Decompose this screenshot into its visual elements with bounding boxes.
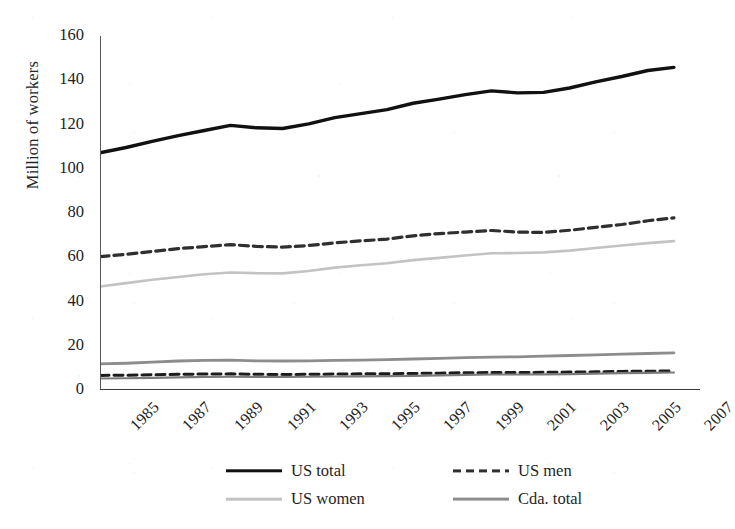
legend-item-us-men: US men (453, 461, 572, 481)
x-axis-tick-label: 1995 (388, 398, 424, 434)
legend-label: US men (518, 461, 572, 481)
legend-label: US women (291, 489, 365, 509)
x-axis-tick-label: 1997 (440, 398, 476, 434)
x-axis-tick-label: 1985 (127, 398, 163, 434)
x-axis-tick-label: 2005 (648, 398, 684, 434)
x-axis-tick-label: 1987 (179, 398, 215, 434)
legend-item-cda-total: Cda. total (453, 489, 582, 509)
legend-item-us-women: US women (226, 489, 365, 509)
x-axis-tick-label: 2007 (701, 398, 735, 434)
chart-legend: US total US men US women Cda. total (226, 461, 646, 517)
legend-label: Cda. total (518, 489, 582, 509)
x-axis-tick-label: 1999 (492, 398, 528, 434)
x-axis-tick-label: 1991 (283, 398, 319, 434)
x-axis-tick-label: 2001 (544, 398, 580, 434)
x-axis-tick-label: 1993 (335, 398, 371, 434)
x-axis-tick-label: 2003 (596, 398, 632, 434)
legend-label: US total (291, 461, 346, 481)
x-axis-tick-label: 1989 (231, 398, 267, 434)
legend-item-us-total: US total (226, 461, 346, 481)
